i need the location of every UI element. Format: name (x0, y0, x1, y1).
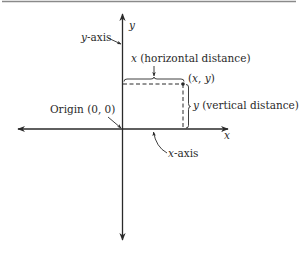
point-xy-dot (181, 82, 185, 86)
horizontal-distance-label: x (horizontal distance) (131, 52, 251, 64)
y-axis-label: y-axis (80, 31, 111, 43)
vertical-brace (186, 85, 191, 129)
x-axis-leader-arrow (154, 132, 168, 153)
x-axis-name: x (224, 129, 230, 141)
y-axis-name: y (128, 19, 136, 31)
x-axis-label: x-axis (168, 147, 198, 159)
vertical-distance-label: y (vertical distance) (192, 99, 299, 111)
coordinate-diagram: y x y-axis Origin (0, 0) x-axis (x, y) x… (0, 0, 300, 254)
point-xy-label: (x, y) (188, 72, 215, 84)
origin-label: Origin (0, 0) (50, 103, 115, 115)
origin-leader-arrow (108, 117, 121, 128)
horizontal-brace (124, 77, 184, 82)
